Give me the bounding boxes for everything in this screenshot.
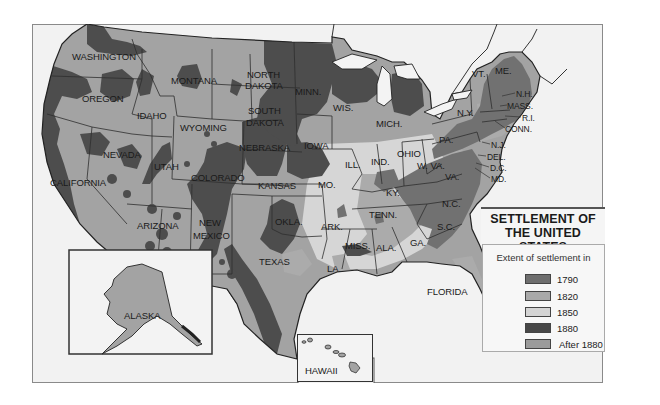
legend-label-1790: 1790 [557,274,578,285]
legend-item-after-1880: After 1880 [525,338,603,350]
legend-heading: Extent of settlement in [483,252,604,263]
map-title-box: SETTLEMENT OF THE UNITED STATES [481,207,605,245]
legend-swatch-1820 [525,291,551,301]
legend-label-1880: 1880 [557,323,578,334]
legend: Extent of settlement in 1790 1820 1850 1… [482,244,605,352]
legend-label-1850: 1850 [557,307,578,318]
legend-swatch-after-1880 [525,339,551,349]
legend-item-1790: 1790 [525,273,578,285]
legend-label-1820: 1820 [557,291,578,302]
legend-item-1850: 1850 [525,306,578,318]
legend-swatch-1850 [525,307,551,317]
legend-swatch-1880 [525,323,551,333]
legend-item-1880: 1880 [525,322,578,334]
legend-swatch-1790 [525,274,551,284]
legend-item-1820: 1820 [525,290,578,302]
map-title-line-1: SETTLEMENT OF [481,212,605,226]
legend-label-after-1880: After 1880 [559,339,603,350]
